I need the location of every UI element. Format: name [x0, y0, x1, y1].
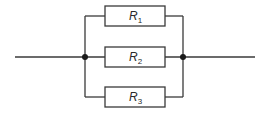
resistor-r1: R1 — [105, 6, 165, 26]
resistor-r1-symbol: R — [129, 9, 138, 23]
resistor-r2: R2 — [105, 47, 165, 67]
resistor-r3-symbol: R — [129, 90, 138, 104]
parallel-circuit-diagram: R1 R2 R3 — [0, 0, 277, 116]
left-junction-dot — [82, 54, 88, 60]
resistor-r2-symbol: R — [129, 50, 138, 64]
resistor-r3: R3 — [105, 87, 165, 107]
resistor-r1-subscript: 1 — [138, 16, 143, 25]
resistor-r3-subscript: 3 — [138, 97, 143, 106]
right-junction-dot — [180, 54, 186, 60]
resistor-r2-subscript: 2 — [138, 57, 143, 66]
